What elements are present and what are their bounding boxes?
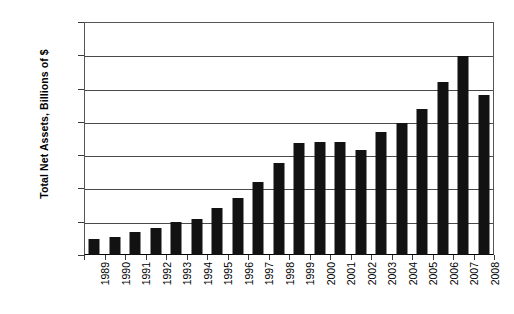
x-axis-tick-mark	[187, 255, 188, 260]
x-axis-tick-mark	[330, 255, 331, 260]
x-axis-tick-label: 2006	[448, 262, 460, 285]
x-axis-tick-label: 1996	[243, 262, 255, 285]
bar-slot	[453, 22, 474, 255]
bar[interactable]	[191, 219, 202, 255]
bar-slot	[330, 22, 351, 255]
bar-slot	[207, 22, 228, 255]
bar-slot	[228, 22, 249, 255]
x-axis-tick-label: 1991	[140, 262, 152, 285]
bar-slot	[105, 22, 126, 255]
bar-slot	[392, 22, 413, 255]
bar-slot	[187, 22, 208, 255]
x-axis-tick-label: 1993	[181, 262, 193, 285]
bar[interactable]	[273, 163, 284, 255]
x-axis-tick-label: 2003	[386, 262, 398, 285]
bar-slot	[269, 22, 290, 255]
x-axis-tick-label: 1999	[304, 262, 316, 285]
x-axis-tick-label: 1995	[222, 262, 234, 285]
bar-slot	[310, 22, 331, 255]
bar[interactable]	[376, 132, 387, 255]
x-axis-tick-mark	[125, 255, 126, 260]
x-axis-tick-label: 2000	[325, 262, 337, 285]
bar[interactable]	[171, 222, 182, 255]
bar-slot	[371, 22, 392, 255]
x-axis-tick-mark	[474, 255, 475, 260]
x-axis-tick-label: 1989	[99, 262, 111, 285]
x-axis-tick-label: 2008	[489, 262, 501, 285]
bar[interactable]	[355, 150, 366, 255]
bar[interactable]	[396, 123, 407, 255]
x-axis-tick-mark	[453, 255, 454, 260]
x-axis-tick-label: 1992	[161, 262, 173, 285]
x-axis-tick-label: 1990	[120, 262, 132, 285]
bar[interactable]	[89, 239, 100, 255]
x-axis-tick-mark	[371, 255, 372, 260]
x-axis-tick-mark	[412, 255, 413, 260]
x-axis-tick-mark	[207, 255, 208, 260]
bar-slot	[84, 22, 105, 255]
bar[interactable]	[478, 95, 489, 255]
bar[interactable]	[150, 228, 161, 255]
bar-slot	[125, 22, 146, 255]
bar-slot	[166, 22, 187, 255]
bar-slot	[289, 22, 310, 255]
bar[interactable]	[437, 82, 448, 255]
bar[interactable]	[294, 143, 305, 255]
x-axis-tick-label: 2005	[427, 262, 439, 285]
bar[interactable]	[212, 208, 223, 255]
y-axis-title: Total Net Assets, Billions of $	[38, 4, 50, 244]
x-axis-tick-mark	[146, 255, 147, 260]
bar[interactable]	[417, 109, 428, 255]
bar-slot	[412, 22, 433, 255]
x-axis-tick-mark	[351, 255, 352, 260]
bar-chart-figure: Total Net Assets, Billions of $ 14,00012…	[0, 0, 514, 314]
x-axis-tick-mark	[269, 255, 270, 260]
bars-layer	[84, 22, 494, 255]
bar[interactable]	[253, 182, 264, 255]
bar[interactable]	[109, 237, 120, 255]
bar-slot	[474, 22, 495, 255]
x-axis-tick-mark	[248, 255, 249, 260]
x-axis-tick-label: 1998	[284, 262, 296, 285]
x-axis-tick-mark	[166, 255, 167, 260]
bar[interactable]	[232, 198, 243, 255]
bar[interactable]	[458, 56, 469, 255]
x-axis-tick-mark	[289, 255, 290, 260]
x-axis-tick-mark	[228, 255, 229, 260]
x-axis-tick-label: 1994	[202, 262, 214, 285]
x-axis-tick-mark	[105, 255, 106, 260]
x-axis-tick-mark	[84, 255, 85, 260]
x-axis-tick-mark	[310, 255, 311, 260]
bar-slot	[146, 22, 167, 255]
x-axis-tick-label: 2007	[468, 262, 480, 285]
bar[interactable]	[314, 142, 325, 255]
x-axis-tick-label: 2002	[366, 262, 378, 285]
x-axis-tick-mark	[392, 255, 393, 260]
bar-slot	[433, 22, 454, 255]
x-axis-tick-mark	[433, 255, 434, 260]
bar[interactable]	[335, 142, 346, 255]
bar-slot	[351, 22, 372, 255]
x-axis-tick-mark	[494, 255, 495, 260]
x-axis-tick-label: 2001	[345, 262, 357, 285]
x-axis-tick-label: 1997	[263, 262, 275, 285]
x-axis-tick-label: 2004	[407, 262, 419, 285]
bar-slot	[248, 22, 269, 255]
bar[interactable]	[130, 232, 141, 255]
